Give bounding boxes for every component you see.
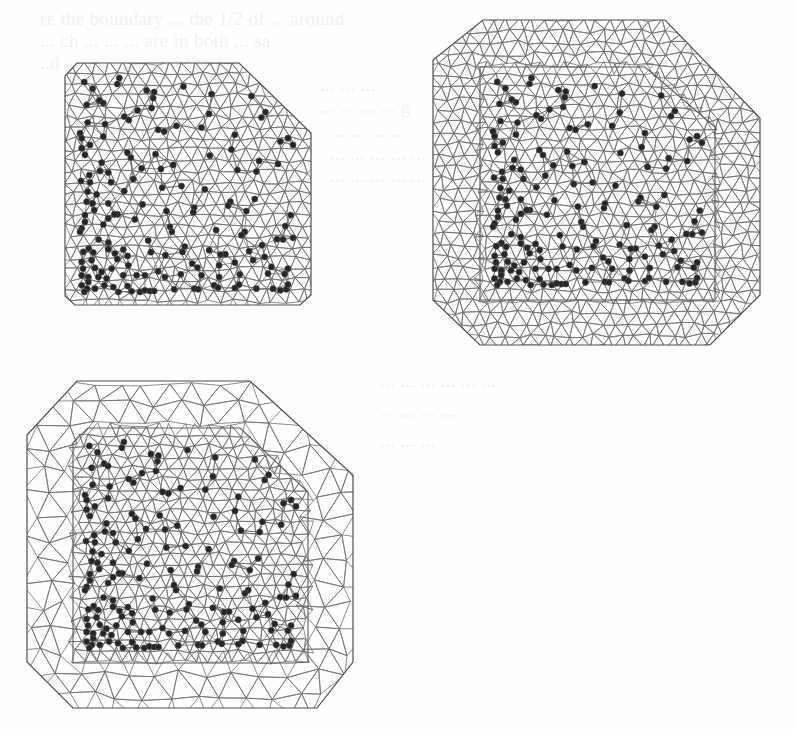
data-site-dot [234,167,240,173]
data-site-dot [220,619,226,625]
data-site-dot [585,121,591,127]
data-site-dot [697,208,703,214]
data-site-dot [87,142,93,148]
data-site-dot [609,123,615,129]
data-site-dot [202,629,208,635]
data-site-dot [135,536,141,542]
data-site-dot [182,628,188,634]
data-site-dot [145,237,151,243]
data-site-dot [113,622,119,628]
data-site-dot [252,196,258,202]
data-site-dot [89,558,95,564]
data-site-dot [278,522,284,528]
data-site-dot [198,621,204,627]
data-site-dot [266,472,272,478]
data-site-dot [183,606,189,612]
data-site-dot [533,184,539,190]
data-site-dot [513,132,519,138]
data-site-dot [293,503,299,509]
data-site-dot [518,196,524,202]
data-site-dot [229,562,235,568]
data-site-dot [120,645,126,651]
data-site-dot [91,532,97,538]
data-site-dot [105,239,111,245]
data-site-dot [210,473,216,479]
data-site-dot [134,272,140,278]
data-site-dot [91,207,97,213]
data-site-dot [270,286,276,292]
data-site-dot [288,497,294,503]
data-site-dot [90,482,96,488]
data-site-dot [580,224,586,230]
data-site-dot [240,638,246,644]
data-site-dot [87,179,93,185]
data-site-dot [253,169,259,175]
data-site-dot [84,507,90,513]
data-site-dot [694,275,700,281]
data-site-dot [672,108,678,114]
data-site-dot [495,214,501,220]
data-site-dot [215,285,221,291]
data-site-dot [490,224,496,230]
data-site-dot [207,153,213,159]
data-site-dot [687,280,693,286]
data-site-dot [656,242,662,248]
data-site-dot [496,195,502,201]
data-site-dot [82,219,88,225]
data-site-dot [639,144,645,150]
data-site-dot [273,642,279,648]
data-site-dot [689,231,695,237]
data-site-dot [194,568,200,574]
data-site-dot [85,606,91,612]
data-site-dot [582,279,588,285]
data-site-dot [116,75,122,81]
data-site-dot [84,497,90,503]
data-site-dot [101,282,107,288]
data-site-dot [105,463,111,469]
data-site-dot [280,643,286,649]
data-site-dot [90,86,96,92]
data-site-dot [93,614,99,620]
data-site-dot [277,138,283,144]
data-site-dot [125,629,131,635]
data-site-dot [619,90,625,96]
data-site-dot [168,567,174,573]
data-site-dot [514,275,520,281]
data-site-dot [220,630,226,636]
data-site-dot [258,114,264,120]
data-site-dot [687,136,693,142]
data-site-dot [199,642,205,648]
data-site-dot [87,571,93,577]
data-site-dot [162,526,168,532]
data-site-dot [679,279,685,285]
data-site-dot [132,516,138,522]
data-site-dot [79,135,85,141]
data-site-dot [110,284,116,290]
mesh-figure-c [10,380,371,723]
data-site-dot [669,237,675,243]
data-site-dot [167,610,173,616]
data-site-dot [288,212,294,218]
data-site-dot [505,279,511,285]
data-site-dot [83,538,89,544]
data-site-dot [81,79,87,85]
data-site-dot [537,256,543,262]
data-site-dot [268,264,274,270]
data-site-dot [213,227,219,233]
data-site-dot [109,266,115,272]
data-site-dot [85,622,91,628]
data-site-dot [541,281,547,287]
data-site-dot [193,618,199,624]
data-site-dot [600,254,606,260]
data-site-dot [274,236,280,242]
data-site-dot [518,166,524,172]
data-site-dot [528,282,534,288]
data-site-dot [232,260,238,266]
data-site-dot [162,252,168,258]
data-site-dot [92,539,98,545]
data-site-dot [626,267,632,273]
data-site-dot [89,465,95,471]
data-site-dot [178,271,184,277]
data-site-dot [257,642,263,648]
data-site-dot [84,616,90,622]
